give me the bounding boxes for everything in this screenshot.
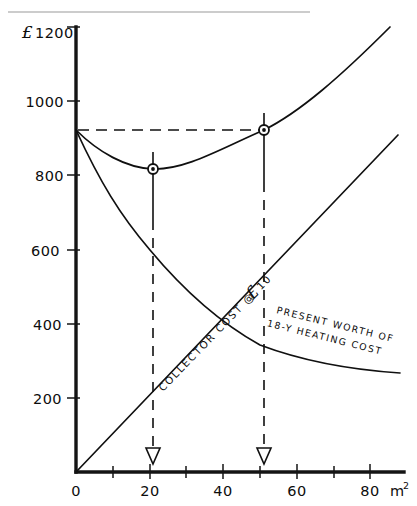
present-worth-label-group: PRESENT WORTH OF 18-Y HEATING COST	[266, 303, 395, 359]
break-even-marker	[259, 125, 269, 135]
y-axis-ticks	[67, 27, 80, 398]
y-axis-unit-label: £	[21, 22, 33, 42]
x-axis-unit-superscript: 2	[403, 480, 409, 491]
x-axis-unit-label: m	[390, 483, 404, 499]
x-tick-label-40: 40	[213, 483, 232, 499]
minimum-total-cost-marker	[148, 164, 158, 174]
present-worth-curve	[76, 130, 400, 373]
collector-cost-rate: 10	[254, 273, 273, 292]
y-tick-label-1000: 1000	[25, 94, 64, 110]
collector-cost-label-group: COLLECTOR COST @ £ 10	[152, 268, 276, 395]
y-tick-label-1200: 1200	[35, 25, 74, 41]
x-tick-label-0: 0	[71, 483, 81, 499]
x-tick-label-80: 80	[360, 483, 379, 499]
minimum-dropline-arrowhead	[146, 448, 160, 464]
y-tick-label-400: 400	[33, 317, 62, 333]
chart-canvas: £ 1200 1000 800 600 400 200 0 20 40 60 8…	[0, 0, 417, 506]
y-tick-label-600: 600	[31, 243, 60, 259]
breakeven-dropline-arrowhead	[257, 448, 271, 464]
x-tick-label-20: 20	[140, 483, 159, 499]
y-tick-label-200: 200	[33, 391, 62, 407]
x-tick-label-60: 60	[287, 483, 306, 499]
y-tick-label-800: 800	[35, 168, 64, 184]
total-cost-curve	[76, 27, 390, 169]
cost-optimisation-chart: £ 1200 1000 800 600 400 200 0 20 40 60 8…	[0, 0, 417, 506]
collector-cost-label: COLLECTOR COST @	[157, 290, 257, 393]
